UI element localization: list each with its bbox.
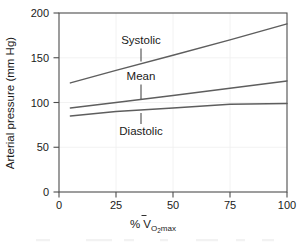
x-tick-label-25: 25	[110, 199, 122, 211]
y-tick-labels: 0 50 100 150 200	[31, 7, 49, 198]
svg-text:%VO2max: %VO2max	[130, 218, 176, 234]
y-tick-label-0: 0	[43, 186, 49, 198]
series-label-diastolic: Diastolic	[119, 125, 163, 137]
x-axis-ticks	[59, 192, 287, 198]
y-tick-label-50: 50	[37, 141, 49, 153]
arterial-pressure-line-chart: 0 50 100 150 200 0 25 50 75 100 Arterial…	[0, 0, 307, 244]
y-tick-label-100: 100	[31, 97, 49, 109]
series-label-systolic: Systolic	[121, 34, 161, 46]
bottom-scan-artifact	[36, 239, 274, 241]
figure-container: 0 50 100 150 200 0 25 50 75 100 Arterial…	[0, 0, 307, 244]
x-axis-title-percent: %	[130, 218, 140, 230]
x-tick-label-50: 50	[167, 199, 179, 211]
y-axis-ticks	[54, 13, 60, 192]
x-tick-label-75: 75	[224, 199, 236, 211]
x-axis-title: %VO2max	[130, 216, 176, 234]
y-tick-label-200: 200	[31, 7, 49, 19]
x-axis-title-max: max	[161, 224, 176, 233]
y-tick-label-150: 150	[31, 52, 49, 64]
series-label-mean: Mean	[127, 70, 156, 82]
x-tick-label-0: 0	[56, 199, 62, 211]
x-tick-labels: 0 25 50 75 100	[56, 199, 296, 211]
x-tick-label-100: 100	[278, 199, 296, 211]
y-axis-title: Arterial pressure (mm Hg)	[4, 37, 16, 169]
